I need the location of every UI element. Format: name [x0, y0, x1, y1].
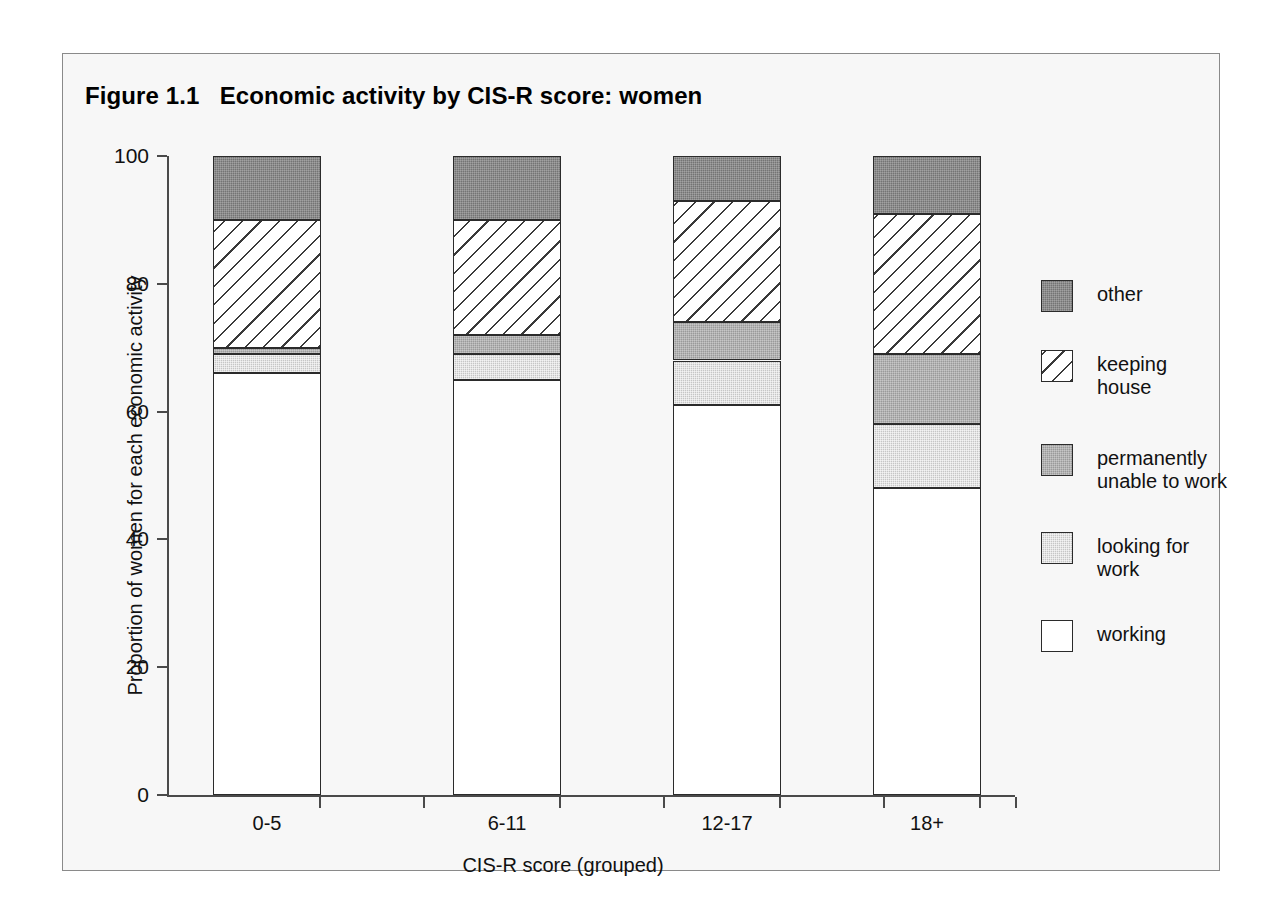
legend-item[interactable]: looking for work [1041, 532, 1189, 581]
y-tick-mark [157, 283, 167, 285]
bar-segment-keeping [213, 220, 321, 348]
bar-12-17 [673, 156, 781, 795]
y-tick-mark [157, 794, 167, 796]
y-tick-mark [157, 666, 167, 668]
bar-segment-other [873, 156, 981, 214]
legend-swatch-icon [1041, 532, 1073, 564]
legend-item-label: looking for work [1097, 532, 1189, 581]
bar-segment-other [673, 156, 781, 201]
bar-segment-keeping [873, 214, 981, 355]
legend-swatch-icon [1041, 444, 1073, 476]
y-tick-mark [157, 411, 167, 413]
legend-item[interactable]: permanently unable to work [1041, 444, 1227, 493]
bar-segment-looking [453, 354, 561, 380]
y-axis-line [167, 156, 169, 796]
x-axis-title: CIS-R score (grouped) [63, 854, 1063, 877]
x-tick-mark [319, 797, 321, 808]
legend-swatch-icon [1041, 280, 1073, 312]
x-tick-mark [1015, 797, 1017, 808]
bar-segment-unable [873, 354, 981, 424]
legend-item-label: permanently unable to work [1097, 444, 1227, 493]
legend-item-label: other [1097, 280, 1143, 306]
y-axis-title: Proportion of women for each economic ac… [124, 186, 147, 786]
x-axis-line [167, 795, 1015, 797]
x-tick-mark [883, 797, 885, 808]
y-tick-label: 0 [137, 784, 149, 805]
bar-segment-other [213, 156, 321, 220]
y-tick-label: 100 [114, 145, 149, 166]
bar-6-11 [453, 156, 561, 795]
legend-item-label: working [1097, 620, 1166, 646]
bar-segment-unable [453, 335, 561, 354]
x-tick-label: 6-11 [447, 812, 567, 835]
bar-segment-working [213, 373, 321, 795]
x-tick-mark [559, 797, 561, 808]
bar-segment-keeping [453, 220, 561, 335]
bar-segment-working [873, 488, 981, 795]
bar-0-5 [213, 156, 321, 795]
legend-item[interactable]: other [1041, 280, 1143, 312]
legend-item[interactable]: working [1041, 620, 1166, 652]
y-tick-mark [157, 155, 167, 157]
legend-swatch-icon [1041, 620, 1073, 652]
x-tick-label: 0-5 [207, 812, 327, 835]
legend-swatch-icon [1041, 350, 1073, 382]
legend-item[interactable]: keeping house [1041, 350, 1167, 399]
bar-segment-keeping [673, 201, 781, 322]
x-tick-label: 18+ [867, 812, 987, 835]
x-tick-mark [979, 797, 981, 808]
y-tick-mark [157, 538, 167, 540]
bar-segment-looking [873, 424, 981, 488]
bar-segment-unable [213, 348, 321, 354]
x-tick-mark [663, 797, 665, 808]
bar-segment-other [453, 156, 561, 220]
bar-segment-looking [213, 354, 321, 373]
bar-18+ [873, 156, 981, 795]
bar-segment-working [673, 405, 781, 795]
bar-segment-looking [673, 361, 781, 406]
bar-segment-unable [673, 322, 781, 360]
x-tick-label: 12-17 [667, 812, 787, 835]
figure-frame: Figure 1.1 Economic activity by CIS-R sc… [62, 53, 1220, 871]
legend-item-label: keeping house [1097, 350, 1167, 399]
bar-segment-working [453, 380, 561, 795]
x-tick-mark [779, 797, 781, 808]
x-tick-mark [423, 797, 425, 808]
